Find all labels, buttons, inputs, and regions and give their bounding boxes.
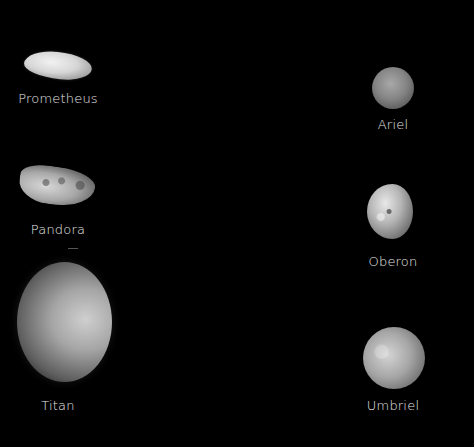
umbriel-label: Umbriel (367, 398, 419, 413)
titan-image (17, 262, 112, 382)
ariel-label: Ariel (378, 117, 408, 132)
oberon-image (367, 184, 413, 239)
scale-mark (68, 248, 78, 249)
oberon-label: Oberon (369, 254, 418, 269)
prometheus-label: Prometheus (18, 91, 98, 106)
prometheus-image (23, 49, 93, 83)
moons-figure: Prometheus Pandora Titan Ariel Oberon Um… (0, 0, 474, 447)
pandora-label: Pandora (31, 222, 85, 237)
pandora-image (17, 162, 98, 210)
umbriel-image (363, 327, 425, 389)
titan-label: Titan (41, 398, 74, 413)
ariel-image (372, 67, 414, 109)
